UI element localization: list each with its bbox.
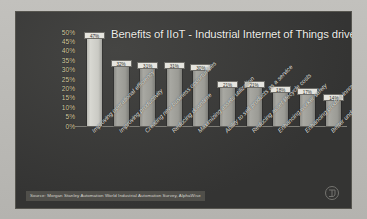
y-axis-tick-label: 25% xyxy=(48,76,75,83)
bar-value-label: 31% xyxy=(137,62,158,69)
y-axis-tick-label: 20% xyxy=(48,85,75,92)
y-axis-tick-label: 35% xyxy=(48,57,75,64)
y-axis-tick-label: 40% xyxy=(48,47,75,54)
bar-value-label: 31% xyxy=(164,62,185,69)
bar-value-label: 47% xyxy=(84,32,105,39)
chart-bar[interactable] xyxy=(87,38,102,126)
y-axis-tick-label: 15% xyxy=(48,94,75,101)
y-axis-tick-label: 5% xyxy=(48,113,75,120)
slide-outer-frame: Benefits of IIoT - Industrial Internet o… xyxy=(0,0,367,219)
y-axis-tick-label: 10% xyxy=(48,104,75,111)
presentation-slide: Benefits of IIoT - Industrial Internet o… xyxy=(15,11,352,209)
bar-slot: 47% xyxy=(87,32,102,126)
bar-value-label: 21% xyxy=(217,81,238,88)
y-axis: 50%45%40%35%30%25%20%15%10%5%0% xyxy=(48,27,75,131)
y-axis-tick-label: 45% xyxy=(48,38,75,45)
bar-value-label: 32% xyxy=(111,60,132,67)
circle-monogram-logo-icon xyxy=(322,183,342,203)
source-note: Source: Morgan Stanley Automation World … xyxy=(26,191,205,201)
y-axis-tick-label: 50% xyxy=(48,29,75,36)
y-axis-tick-label: 30% xyxy=(48,66,75,73)
